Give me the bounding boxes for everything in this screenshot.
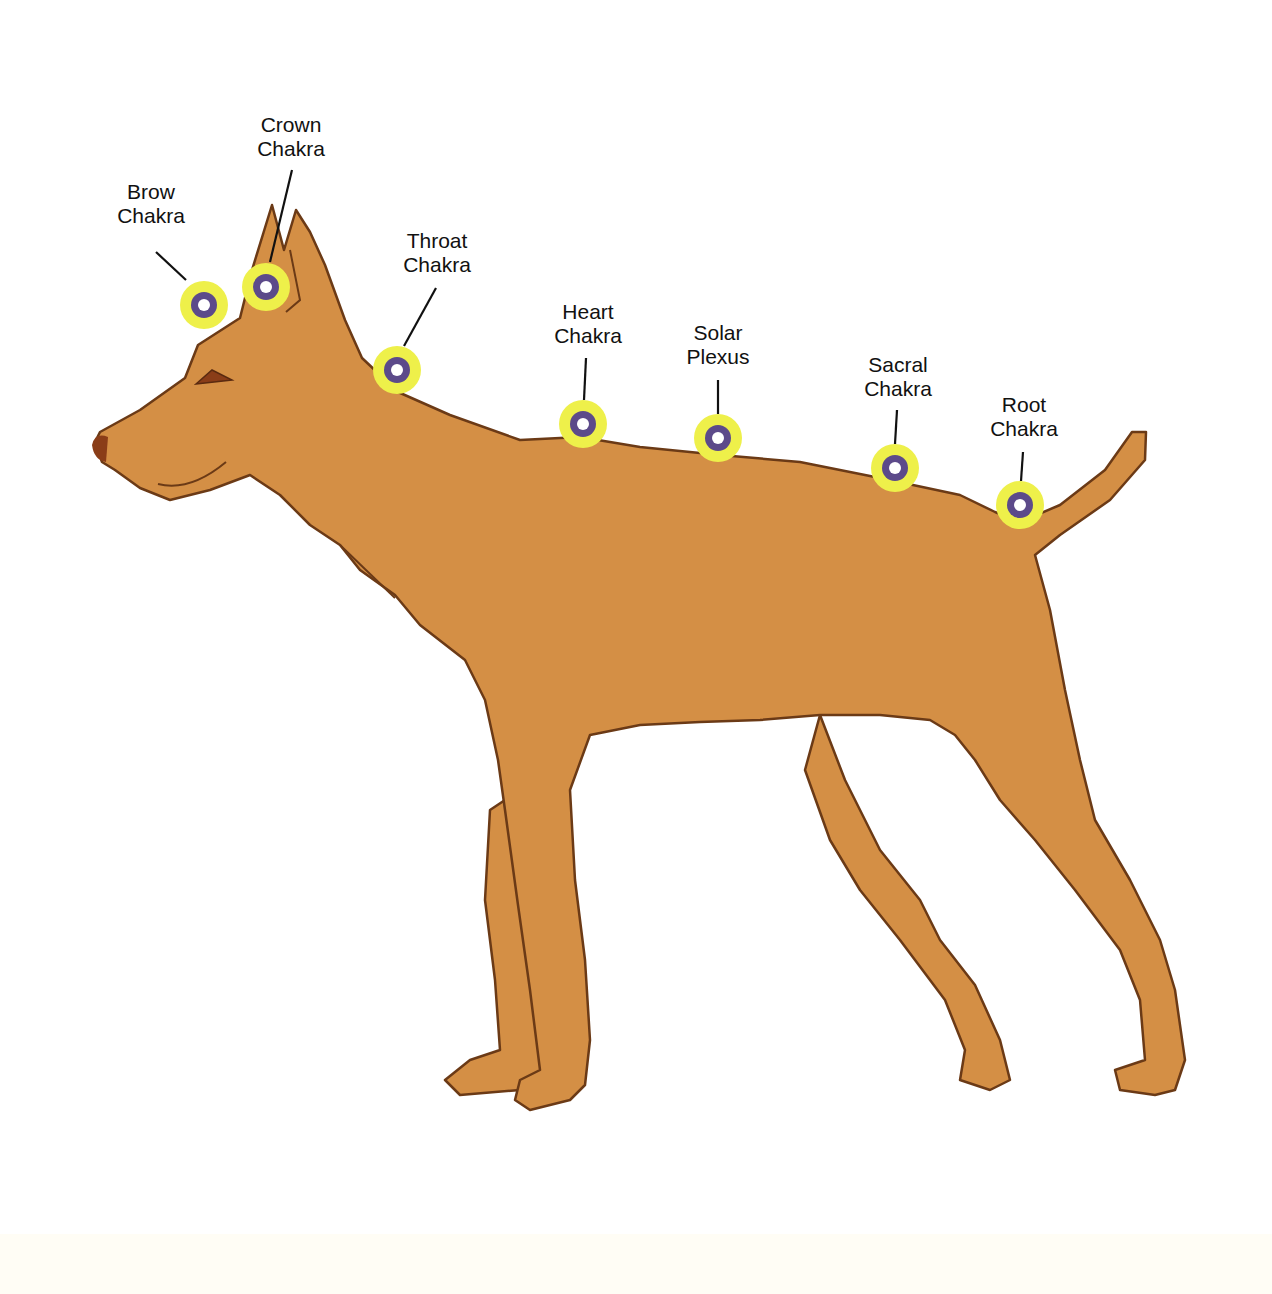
label-line-2: Chakra [554,324,622,348]
throat-chakra-marker [373,346,421,394]
solar-chakra-label: SolarPlexus [686,321,749,369]
label-line-1: Brow [117,180,185,204]
label-line-2: Chakra [864,377,932,401]
sacral-chakra-label: SacralChakra [864,353,932,401]
heart-leader-line [584,358,586,400]
root-chakra-label: RootChakra [990,393,1058,441]
label-line-1: Throat [403,229,471,253]
label-line-1: Sacral [864,353,932,377]
brow-chakra-label: BrowChakra [117,180,185,228]
root-leader-line [1021,452,1023,481]
dog-nose [92,436,108,462]
heart-chakra-label: HeartChakra [554,300,622,348]
label-line-2: Chakra [117,204,185,228]
crown-chakra-marker [242,263,290,311]
label-line-2: Plexus [686,345,749,369]
throat-chakra-label: ThroatChakra [403,229,471,277]
label-line-1: Solar [686,321,749,345]
sacral-chakra-marker [871,444,919,492]
label-line-1: Crown [257,113,325,137]
chakra-diagram: BrowChakraCrownChakraThroatChakraHeartCh… [0,0,1272,1294]
dog-body [95,205,1185,1110]
label-line-2: Chakra [403,253,471,277]
crown-chakra-label: CrownChakra [257,113,325,161]
brow-chakra-marker [180,281,228,329]
label-line-2: Chakra [257,137,325,161]
root-chakra-marker [996,481,1044,529]
label-line-2: Chakra [990,417,1058,441]
brow-leader-line [156,252,186,280]
solar-chakra-marker [694,414,742,462]
throat-leader-line [404,288,436,346]
heart-chakra-marker [559,400,607,448]
dog-illustration [0,0,1272,1294]
label-line-1: Root [990,393,1058,417]
label-line-1: Heart [554,300,622,324]
sacral-leader-line [895,410,897,444]
